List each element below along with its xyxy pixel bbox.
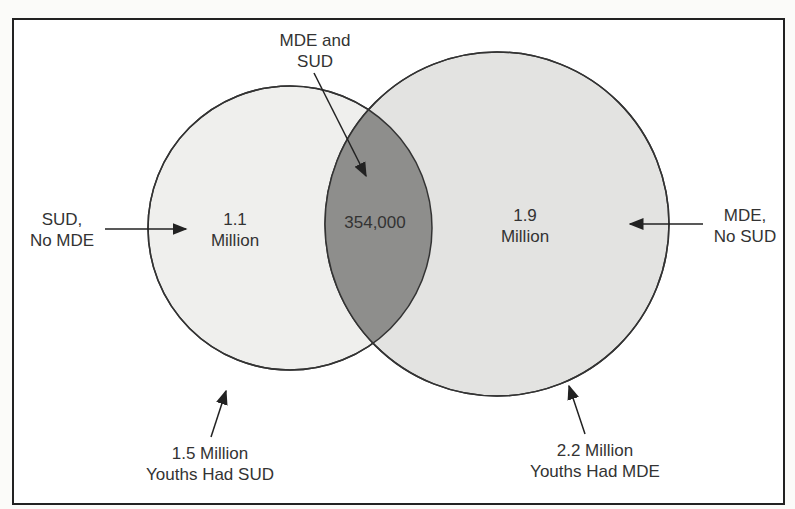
mde-only-label: MDE, No SUD [705, 205, 785, 247]
arrow-mde-total [569, 386, 585, 434]
mde-only-value: 1.9 Million [490, 205, 560, 247]
intersection-label: MDE and SUD [265, 30, 365, 72]
mde-total-label: 2.2 Million Youths Had MDE [515, 440, 675, 482]
intersection-value: 354,000 [335, 212, 415, 233]
sud-only-value: 1.1 Million [200, 209, 270, 251]
sud-only-label: SUD, No MDE [20, 209, 104, 251]
sud-total-label: 1.5 Million Youths Had SUD [135, 443, 285, 485]
venn-diagram [0, 0, 795, 509]
arrow-sud-total [211, 391, 226, 437]
